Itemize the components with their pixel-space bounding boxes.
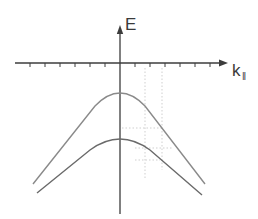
band-diagram: k ‖ E xyxy=(0,0,258,219)
e-axis: E xyxy=(117,15,137,214)
k-axis-subscript: ‖ xyxy=(242,71,246,82)
k-axis: k ‖ xyxy=(15,60,246,83)
e-axis-label: E xyxy=(125,15,136,34)
e-axis-arrow-icon xyxy=(117,25,123,34)
k-axis-label: k xyxy=(232,61,241,80)
k-axis-arrow-icon xyxy=(219,60,228,67)
